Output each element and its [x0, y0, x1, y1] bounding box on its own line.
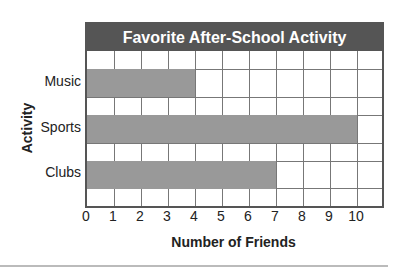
x-tick-label: 10 [346, 208, 366, 224]
x-tick-label: 4 [184, 208, 204, 224]
x-tick-label: 1 [103, 208, 123, 224]
x-tick-label: 8 [292, 208, 312, 224]
bar-clubs [87, 161, 276, 189]
x-tick-label: 0 [76, 208, 96, 224]
grid-line [87, 143, 382, 144]
divider [0, 265, 388, 267]
plot-area [87, 51, 382, 206]
x-tick-label: 3 [157, 208, 177, 224]
category-label: Music [44, 73, 81, 89]
chart-title: Favorite After-School Activity [87, 24, 382, 51]
x-tick-label: 9 [319, 208, 339, 224]
x-tick-label: 6 [238, 208, 258, 224]
bar-sports [87, 115, 357, 143]
x-tick-label: 5 [211, 208, 231, 224]
category-label: Clubs [45, 164, 81, 180]
x-axis-label: Number of Friends [85, 234, 382, 250]
chart-frame: Favorite After-School Activity [85, 22, 384, 208]
grid-line [87, 97, 382, 98]
category-label: Sports [41, 119, 81, 135]
y-axis-label: Activity [19, 103, 35, 154]
x-tick-label: 2 [130, 208, 150, 224]
bar-music [87, 69, 195, 97]
grid-line [357, 51, 358, 206]
x-tick-label: 7 [265, 208, 285, 224]
